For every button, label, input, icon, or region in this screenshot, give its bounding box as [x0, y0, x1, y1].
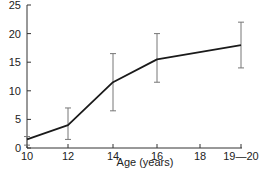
y-tick-label: 15: [9, 56, 21, 68]
x-tick-label: 18: [194, 150, 206, 162]
y-ticks: 0510152025: [9, 0, 31, 154]
y-tick-label: 20: [9, 28, 21, 40]
x-axis-title: Age (years): [117, 156, 174, 168]
y-tick-label: 10: [9, 85, 21, 97]
error-bars: [24, 22, 244, 145]
x-tick-label: 10: [21, 150, 33, 162]
x-tick-label: 12: [62, 150, 74, 162]
y-tick-label: 25: [9, 0, 21, 11]
data-line: [27, 45, 241, 139]
y-tick-label: 5: [15, 113, 21, 125]
x-tick-label: 19—20: [223, 150, 258, 162]
line-chart: 0510152025 101214161819—20 Age (years): [0, 0, 264, 187]
